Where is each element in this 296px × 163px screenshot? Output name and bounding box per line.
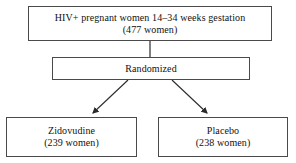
node-zidovudine: Zidovudine (239 women) [6, 117, 137, 157]
node-placebo-line2: (238 women) [196, 137, 251, 149]
connector-randomized-to-placebo [172, 80, 207, 113]
node-placebo-line1: Placebo [207, 125, 239, 137]
node-zidovudine-line2: (239 women) [44, 137, 99, 149]
node-randomized-line1: Randomized [125, 63, 177, 75]
node-enrollment: HIV+ pregnant women 14–34 weeks gestatio… [28, 6, 272, 41]
node-enrollment-line1: HIV+ pregnant women 14–34 weeks gestatio… [55, 12, 246, 24]
node-enrollment-line2: (477 women) [123, 24, 178, 36]
node-randomized: Randomized [52, 57, 250, 80]
node-zidovudine-line1: Zidovudine [48, 125, 95, 137]
flowchart: HIV+ pregnant women 14–34 weeks gestatio… [0, 0, 296, 163]
connector-randomized-to-zidovudine [93, 80, 128, 113]
node-placebo: Placebo (238 women) [158, 117, 288, 157]
